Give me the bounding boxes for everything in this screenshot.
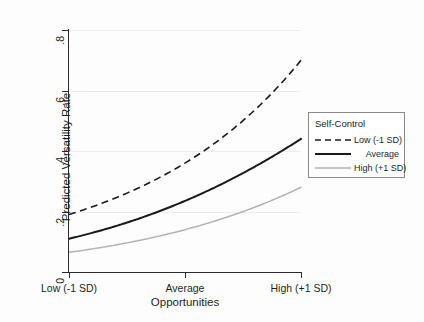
legend-swatch-solid-light: [315, 163, 351, 173]
legend-title: Self-Control: [315, 118, 399, 129]
x-tick-label-low: Low (-1 SD): [41, 282, 97, 294]
x-tick-mark-average: [185, 272, 186, 278]
plot-area: [69, 30, 301, 272]
legend-item-average: Average: [315, 147, 399, 161]
x-axis-title: Opportunities: [68, 296, 302, 308]
series-line-average: [69, 139, 301, 239]
legend-item-high-plus1sd: High (+1 SD): [315, 161, 399, 175]
legend-swatch-solid-dark: [315, 149, 351, 159]
series-line-low-1sd: [69, 60, 301, 214]
x-tick-label-average: Average: [166, 282, 205, 294]
legend-box: Self-Control Low (-1 SD) Average: [308, 112, 405, 178]
series-line-high-plus1sd: [69, 187, 301, 252]
y-axis-title: Predicted Versatility Rate: [60, 37, 72, 277]
legend-label-high-plus1sd: High (+1 SD): [354, 163, 406, 173]
y-tick-mark-0.8: [62, 30, 68, 31]
series-curves: [69, 30, 301, 272]
x-tick-mark-high: [301, 272, 302, 278]
legend-item-low-1sd: Low (-1 SD): [315, 133, 399, 147]
x-tick-label-high: High (+1 SD): [271, 282, 332, 294]
legend-label-average: Average: [354, 149, 399, 159]
chart-figure: .8 .6 .4 .2 0 Low (-1 SD) Average High (…: [0, 0, 424, 322]
legend-label-low-1sd: Low (-1 SD): [354, 135, 402, 145]
legend-swatch-dashed: [315, 135, 351, 145]
